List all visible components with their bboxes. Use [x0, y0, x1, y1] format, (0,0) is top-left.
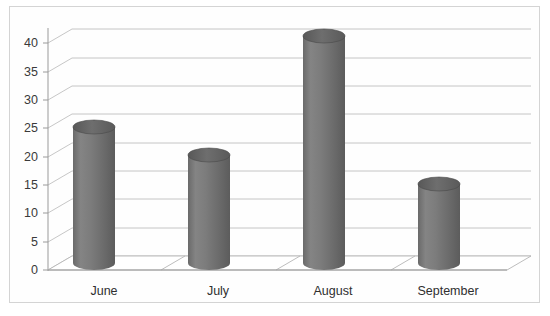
bar-june[interactable] — [73, 120, 115, 270]
category-label-june: June — [90, 284, 117, 298]
y-tick-label-10: 10 — [24, 206, 38, 220]
y-tick-label-20: 20 — [24, 150, 38, 164]
y-axis-tickmarks — [43, 43, 48, 270]
gridline-35 — [48, 58, 531, 72]
bar-september[interactable] — [418, 177, 460, 270]
bar-august-body — [303, 36, 345, 270]
bar-july-body — [188, 155, 230, 270]
y-tick-label-35: 35 — [24, 65, 38, 79]
bar-september-body — [418, 184, 460, 270]
y-tick-label-25: 25 — [24, 121, 38, 135]
y-tick-label-0: 0 — [31, 263, 38, 277]
gridline-40 — [48, 29, 531, 43]
y-axis-labels: 0 5 10 15 20 25 30 35 40 — [24, 36, 38, 277]
y-tick-label-40: 40 — [24, 36, 38, 50]
gridline-30 — [48, 86, 531, 100]
bar-june-top — [73, 120, 115, 134]
bar-chart-3d: 0 5 10 15 20 25 30 35 40 June July Augus… — [0, 0, 550, 316]
category-label-august: August — [314, 284, 353, 298]
y-tick-label-15: 15 — [24, 178, 38, 192]
category-label-september: September — [417, 284, 478, 298]
x-axis-labels: June July August September — [90, 284, 478, 298]
y-tick-label-30: 30 — [24, 93, 38, 107]
bar-september-top — [418, 177, 460, 191]
gridline-25 — [48, 114, 531, 128]
y-tick-label-5: 5 — [31, 235, 38, 249]
bar-july[interactable] — [188, 148, 230, 270]
gridline-20 — [48, 143, 531, 157]
bar-august-top — [303, 29, 345, 43]
bar-august[interactable] — [303, 29, 345, 270]
chart-container: 0 5 10 15 20 25 30 35 40 June July Augus… — [0, 0, 550, 316]
bar-june-body — [73, 127, 115, 270]
category-label-july: July — [207, 284, 230, 298]
bar-july-top — [188, 148, 230, 162]
